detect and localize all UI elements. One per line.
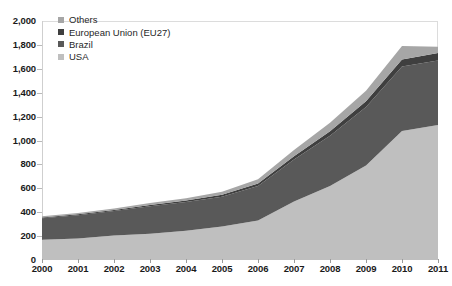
legend-item-label: USA [69, 52, 89, 62]
y-axis-tick-label: 1,600 [0, 64, 36, 74]
x-axis-label-group: 2000200120022003200420052006200720082009… [0, 264, 452, 282]
y-axis-tick-label: 200 [0, 231, 36, 241]
legend-item-label: Brazil [69, 40, 93, 50]
y-axis-tick-label: 800 [0, 160, 36, 170]
stacked-area-chart: 2,0001,8001,6001,4001,2001,0008006004002… [0, 0, 452, 286]
legend-item-label: European Union (EU27) [69, 28, 170, 38]
y-axis-tick-label: 1,000 [0, 136, 36, 146]
x-axis-tick-label: 2001 [68, 264, 89, 274]
legend-item[interactable]: Others [58, 14, 170, 26]
x-axis-tick-label: 2009 [356, 264, 377, 274]
legend-item-label: Others [69, 15, 98, 25]
legend-item[interactable]: European Union (EU27) [58, 26, 170, 38]
y-axis-tick-label: 1,200 [0, 112, 36, 122]
legend-item[interactable]: USA [58, 51, 170, 63]
chart-legend: OthersEuropean Union (EU27)BrazilUSA [58, 14, 170, 63]
x-axis-tick-label: 2004 [176, 264, 197, 274]
y-axis-label-group: 2,0001,8001,6001,4001,2001,0008006004002… [0, 0, 36, 286]
x-axis-tick-label: 2006 [248, 264, 269, 274]
x-axis-tick-label: 2008 [320, 264, 341, 274]
y-axis-tick-label: 1,400 [0, 88, 36, 98]
x-axis-tick-label: 2000 [32, 264, 53, 274]
x-axis-tick-label: 2005 [212, 264, 233, 274]
x-axis-tick-label: 2003 [140, 264, 161, 274]
legend-swatch-icon [58, 41, 64, 47]
legend-item[interactable]: Brazil [58, 38, 170, 50]
x-axis-tick-label: 2007 [284, 264, 305, 274]
y-axis-tick-label: 400 [0, 207, 36, 217]
x-axis-tick-label: 2011 [428, 264, 448, 274]
y-axis-tick-label: 2,000 [0, 16, 36, 26]
y-axis-tick-label: 1,800 [0, 40, 36, 50]
y-axis-tick-label: 600 [0, 184, 36, 194]
x-axis-tick-label: 2002 [104, 264, 125, 274]
x-axis-tick-label: 2010 [392, 264, 413, 274]
legend-swatch-icon [58, 29, 64, 35]
legend-swatch-icon [58, 17, 64, 23]
legend-swatch-icon [58, 54, 64, 60]
